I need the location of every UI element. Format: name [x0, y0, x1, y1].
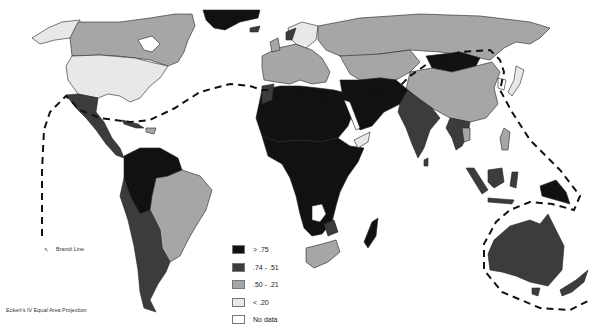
- region-caribbean-islands: [146, 128, 156, 134]
- region-south-africa: [306, 240, 340, 268]
- legend-item: .74 - .51: [232, 259, 279, 277]
- region-borneo: [488, 168, 504, 188]
- region-java: [488, 198, 514, 204]
- legend-swatch-low: [232, 298, 245, 307]
- legend-label: < .20: [253, 299, 269, 306]
- legend-item: No data: [232, 311, 279, 328]
- region-papua-new-guinea: [540, 180, 570, 204]
- legend-label: .74 - .51: [253, 264, 279, 271]
- projection-label: Eckert's IV Equal Area Projection: [6, 307, 87, 313]
- region-tasmania: [532, 288, 540, 296]
- legend-label: > .75: [253, 246, 269, 253]
- region-philippines: [500, 128, 510, 150]
- legend-swatch-high: [232, 263, 245, 272]
- legend-item: > .75: [232, 241, 279, 259]
- region-australia: [488, 214, 564, 286]
- brandt-line-arrow: ↖: [44, 246, 49, 253]
- region-sub-saharan-africa: [262, 136, 364, 236]
- region-new-zealand: [560, 270, 588, 296]
- legend-label: .50 - .21: [253, 281, 279, 288]
- legend-label: No data: [253, 316, 278, 323]
- region-madagascar: [364, 218, 378, 248]
- region-sulawesi: [510, 172, 518, 188]
- region-iceland: [250, 26, 260, 32]
- legend-item: .50 - .21: [232, 276, 279, 294]
- region-greenland: [203, 10, 260, 30]
- legend-swatch-medium: [232, 280, 245, 289]
- legend-swatch-very-high: [232, 245, 245, 254]
- map-legend: > .75 .74 - .51 .50 - .21 < .20 No data: [232, 241, 279, 328]
- region-sumatra: [466, 168, 488, 194]
- region-uk: [270, 38, 280, 52]
- legend-item: < .20: [232, 294, 279, 312]
- region-russia: [318, 14, 550, 60]
- region-japan: [508, 66, 524, 96]
- legend-swatch-no-data: [232, 315, 245, 324]
- region-horn-of-africa: [354, 132, 370, 148]
- brandt-line-label: Brandt Line: [56, 246, 84, 252]
- region-sri-lanka: [424, 158, 428, 166]
